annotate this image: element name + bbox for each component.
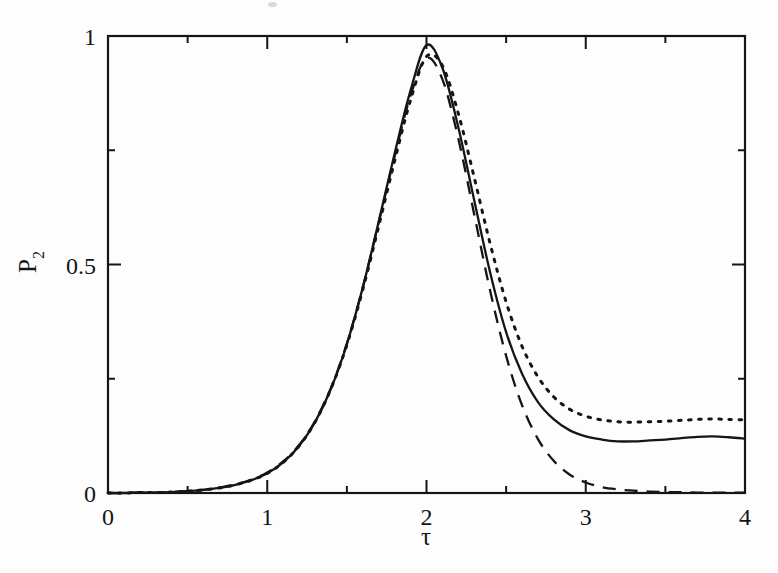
series-solid-curve [108,44,745,493]
figure-container: 01234 00.51 τ P 2 [0,0,778,573]
x-axis-minor-ticks [188,36,666,493]
series-dashed-curve [108,58,745,494]
plot-frame [108,36,745,493]
x-axis-tick-label: 0 [102,504,114,530]
data-series-group [108,44,745,493]
x-axis-tick-label: 1 [261,504,273,530]
x-axis-title: τ [421,523,431,550]
y-axis-tick-label: 0 [84,481,96,507]
y-axis-title-subscript: 2 [30,251,47,259]
y-axis-minor-ticks [108,150,745,379]
x-axis-tick-label: 4 [739,504,751,530]
series-dotted-curve [108,54,745,493]
scan-artifact-speck [268,2,277,7]
y-axis-title-base: P [14,259,41,273]
y-axis-major-ticks [108,36,745,493]
y-axis-title: P 2 [14,251,47,273]
y-axis-tick-label: 0.5 [66,253,96,279]
x-axis-tick-label: 3 [580,504,592,530]
y-axis-tick-labels: 00.51 [66,24,96,507]
x-axis-major-ticks [108,36,745,493]
y-axis-tick-label: 1 [84,24,96,50]
chart-plot: 01234 00.51 τ P 2 [0,0,778,573]
